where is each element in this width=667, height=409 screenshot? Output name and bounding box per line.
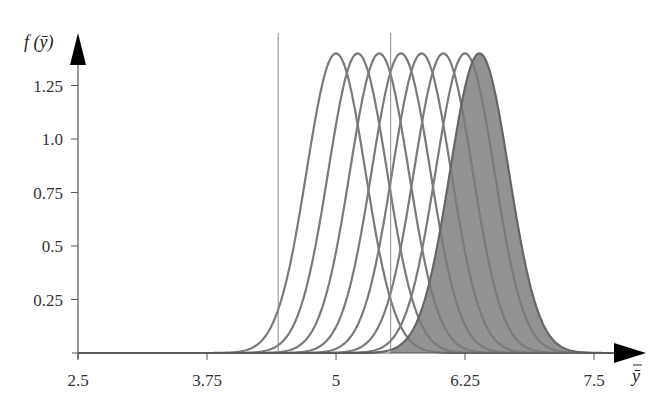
density-chart: 2.53.7556.257.50.250.50.751.01.25 f (ȳ) … <box>0 0 667 409</box>
density-curve <box>78 53 625 353</box>
density-curve <box>78 53 625 353</box>
x-tick-label: 5 <box>332 371 341 390</box>
density-curve <box>78 53 625 353</box>
y-axis-title: f (ȳ) <box>24 32 53 53</box>
vertical-reference-lines <box>278 33 390 353</box>
y-tick-label: 0.5 <box>42 237 63 256</box>
x-tick-label: 7.5 <box>583 371 604 390</box>
density-curve <box>78 53 625 353</box>
density-curve <box>78 53 625 353</box>
x-tick-label: 2.5 <box>67 371 88 390</box>
y-tick-label: 1.25 <box>33 77 63 96</box>
svg-text:ȳ: ȳ <box>630 366 641 386</box>
x-axis-arrow-icon <box>614 343 646 363</box>
density-curve <box>78 53 625 353</box>
axes <box>70 33 646 363</box>
density-curve <box>78 53 625 353</box>
y-tick-label: 1.0 <box>42 130 63 149</box>
y-tick-label: 0.25 <box>33 291 63 310</box>
density-curves <box>78 53 625 353</box>
x-axis-title: ȳ <box>630 365 642 386</box>
x-tick-label: 3.75 <box>192 371 222 390</box>
x-tick-label: 6.25 <box>450 371 480 390</box>
y-tick-label: 0.75 <box>33 184 63 203</box>
density-curve <box>78 53 625 353</box>
y-axis-arrow-icon <box>70 33 86 65</box>
